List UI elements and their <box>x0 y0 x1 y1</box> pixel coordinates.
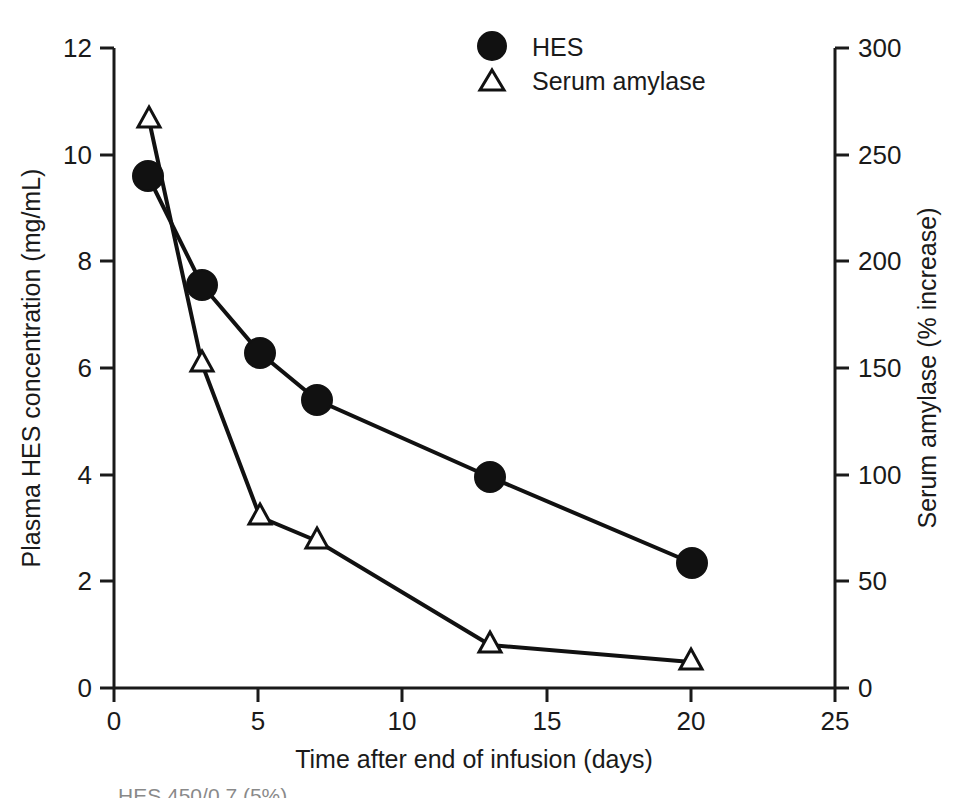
right-axis-tick-labels: 0 50 100 150 200 250 300 <box>858 33 901 703</box>
hes-markers <box>133 161 707 578</box>
data-point-marker <box>249 504 271 524</box>
data-point-marker <box>475 462 505 492</box>
right-tick-label-0: 0 <box>858 673 872 703</box>
legend: HES Serum amylase <box>478 32 706 95</box>
left-axis-tick-labels: 0 2 4 6 8 10 12 <box>63 33 92 703</box>
legend-label-hes: HES <box>532 33 583 61</box>
right-tick-label-150: 150 <box>858 353 901 383</box>
right-tick-label-200: 200 <box>858 246 901 276</box>
legend-item-hes[interactable]: HES <box>478 32 583 61</box>
left-tick-label-2: 2 <box>78 566 92 596</box>
figure-panel: 0 2 4 6 8 10 12 0 50 100 150 200 250 300 <box>0 0 965 800</box>
left-axis-ticks <box>100 48 114 688</box>
data-point-marker <box>245 338 275 368</box>
serum-amylase-line <box>149 120 691 662</box>
x-axis-title: Time after end of infusion (days) <box>295 745 653 773</box>
legend-item-serum-amylase[interactable]: Serum amylase <box>480 67 706 95</box>
x-axis-tick-labels: 0 5 10 15 20 25 <box>107 706 850 736</box>
line-chart: 0 2 4 6 8 10 12 0 50 100 150 200 250 300 <box>0 0 965 800</box>
data-point-marker <box>138 107 160 127</box>
figure-caption: HES 450/0.7 (5%) <box>118 784 838 798</box>
y2-axis-title: Serum amylase (% increase) <box>913 208 941 529</box>
x-axis-ticks <box>114 688 835 702</box>
right-tick-label-100: 100 <box>858 460 901 490</box>
data-point-marker <box>677 548 707 578</box>
open-triangle-icon <box>480 70 504 90</box>
x-tick-label-15: 15 <box>533 706 562 736</box>
data-point-marker <box>133 161 163 191</box>
x-tick-label-0: 0 <box>107 706 121 736</box>
x-tick-label-10: 10 <box>388 706 417 736</box>
axes-group <box>114 48 835 688</box>
right-tick-label-50: 50 <box>858 566 887 596</box>
left-tick-label-8: 8 <box>78 246 92 276</box>
series-hes <box>133 161 707 578</box>
filled-circle-icon <box>478 32 506 60</box>
x-tick-label-5: 5 <box>251 706 265 736</box>
x-tick-label-20: 20 <box>677 706 706 736</box>
left-tick-label-4: 4 <box>78 460 92 490</box>
hes-line <box>148 176 692 563</box>
x-tick-label-25: 25 <box>821 706 850 736</box>
left-tick-label-12: 12 <box>63 33 92 63</box>
serum-amylase-markers <box>138 107 702 669</box>
legend-label-serum-amylase: Serum amylase <box>532 67 706 95</box>
left-tick-label-6: 6 <box>78 353 92 383</box>
left-tick-label-0: 0 <box>78 673 92 703</box>
left-tick-label-10: 10 <box>63 140 92 170</box>
right-tick-label-300: 300 <box>858 33 901 63</box>
data-point-marker <box>191 351 213 371</box>
data-point-marker <box>680 649 702 669</box>
y-axis-title: Plasma HES concentration (mg/mL) <box>17 169 45 568</box>
series-serum-amylase <box>138 107 702 669</box>
data-point-marker <box>302 385 332 415</box>
right-tick-label-250: 250 <box>858 140 901 170</box>
right-axis-ticks <box>835 48 849 688</box>
data-point-marker <box>187 270 217 300</box>
